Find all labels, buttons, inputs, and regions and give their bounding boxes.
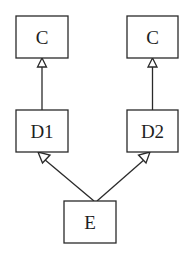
node-label: E bbox=[84, 212, 96, 233]
node-label: D2 bbox=[141, 121, 164, 142]
edge-d2-to-c bbox=[148, 58, 157, 110]
node-d2: D2 bbox=[127, 110, 178, 152]
hollow-triangle-arrow-icon bbox=[38, 58, 47, 67]
node-label: C bbox=[146, 27, 159, 48]
node-c-right: C bbox=[127, 16, 178, 58]
hollow-triangle-arrow-icon bbox=[38, 152, 50, 163]
edge-e-to-d2 bbox=[97, 152, 150, 201]
node-c-left: C bbox=[16, 16, 68, 58]
node-e: E bbox=[64, 201, 116, 243]
node-label: C bbox=[36, 27, 49, 48]
hollow-triangle-arrow-icon bbox=[148, 58, 157, 67]
node-d1: D1 bbox=[16, 110, 68, 152]
node-label: D1 bbox=[30, 121, 53, 142]
inheritance-diagram: C C D1 D2 E bbox=[0, 0, 195, 255]
edge-d1-to-c bbox=[38, 58, 47, 110]
hollow-triangle-arrow-icon bbox=[139, 152, 151, 163]
edge-e-to-d1 bbox=[38, 152, 94, 201]
